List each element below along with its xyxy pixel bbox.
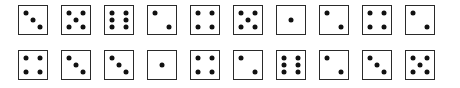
pip-dot (160, 63, 165, 68)
pip-dot (74, 18, 79, 23)
pip-dot (24, 11, 29, 16)
pip-dot (81, 70, 86, 75)
pip-dot (110, 25, 115, 30)
pip-dot (38, 70, 43, 75)
pip-dot (375, 63, 380, 68)
pip-dot (411, 70, 416, 75)
pip-dot (210, 56, 215, 61)
pip-dot (38, 56, 43, 61)
pip-dot (110, 11, 115, 16)
die-face-4 (190, 50, 220, 80)
pip-dot (81, 25, 86, 30)
pip-dot (382, 11, 387, 16)
pip-dot (253, 11, 258, 16)
die-face-5 (233, 5, 263, 35)
die-face-2 (319, 50, 349, 80)
dice-row-2 (18, 50, 435, 80)
die-face-2 (319, 5, 349, 35)
pip-dot (368, 56, 373, 61)
pip-dot (418, 63, 423, 68)
pip-dot (210, 11, 215, 16)
pip-dot (253, 25, 258, 30)
pip-dot (239, 25, 244, 30)
pip-dot (296, 70, 301, 75)
pip-dot (368, 11, 373, 16)
pip-dot (67, 56, 72, 61)
die-face-2 (147, 5, 177, 35)
die-face-1 (147, 50, 177, 80)
pip-dot (196, 56, 201, 61)
pip-dot (31, 18, 36, 23)
die-face-5 (61, 5, 91, 35)
pip-dot (368, 25, 373, 30)
pip-dot (67, 11, 72, 16)
pip-dot (339, 70, 344, 75)
pip-dot (246, 18, 251, 23)
pip-dot (296, 56, 301, 61)
pip-dot (124, 70, 129, 75)
pip-dot (110, 56, 115, 61)
pip-dot (289, 18, 294, 23)
pip-dot (196, 25, 201, 30)
pip-dot (210, 70, 215, 75)
pip-dot (153, 11, 158, 16)
pip-dot (239, 11, 244, 16)
pip-dot (425, 56, 430, 61)
pip-dot (38, 25, 43, 30)
die-face-3 (362, 50, 392, 80)
pip-dot (282, 70, 287, 75)
die-face-3 (61, 50, 91, 80)
pip-dot (411, 56, 416, 61)
die-face-4 (362, 5, 392, 35)
pip-dot (296, 63, 301, 68)
pip-dot (196, 11, 201, 16)
pip-dot (325, 56, 330, 61)
pip-dot (325, 11, 330, 16)
die-face-4 (18, 50, 48, 80)
pip-dot (411, 11, 416, 16)
die-face-2 (405, 5, 435, 35)
pip-dot (282, 63, 287, 68)
die-face-5 (405, 50, 435, 80)
pip-dot (282, 56, 287, 61)
pip-dot (67, 25, 72, 30)
die-face-3 (18, 5, 48, 35)
pip-dot (124, 11, 129, 16)
pip-dot (110, 18, 115, 23)
die-face-6 (104, 5, 134, 35)
pip-dot (253, 70, 258, 75)
pip-dot (196, 70, 201, 75)
pip-dot (117, 63, 122, 68)
die-face-1 (276, 5, 306, 35)
die-face-3 (104, 50, 134, 80)
pip-dot (339, 25, 344, 30)
pip-dot (167, 25, 172, 30)
pip-dot (74, 63, 79, 68)
die-face-6 (276, 50, 306, 80)
pip-dot (24, 56, 29, 61)
pip-dot (239, 56, 244, 61)
dice-row-1 (18, 5, 435, 35)
pip-dot (425, 70, 430, 75)
pip-dot (210, 25, 215, 30)
die-face-4 (190, 5, 220, 35)
pip-dot (24, 70, 29, 75)
pip-dot (425, 25, 430, 30)
pip-dot (382, 70, 387, 75)
pip-dot (382, 25, 387, 30)
pip-dot (124, 25, 129, 30)
die-face-2 (233, 50, 263, 80)
pip-dot (81, 11, 86, 16)
pip-dot (124, 18, 129, 23)
